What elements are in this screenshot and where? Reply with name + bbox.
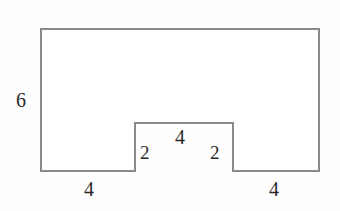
notched-rectangle-outline — [41, 29, 319, 171]
shape-outline-svg — [0, 0, 340, 211]
dimension-label-left-height: 6 — [16, 90, 26, 110]
dimension-label-bottom-left-width: 4 — [84, 179, 94, 199]
dimension-label-bottom-right-width: 4 — [269, 179, 279, 199]
dimension-label-notch-right-height: 2 — [210, 143, 220, 162]
geometry-figure: 6 4 2 4 2 4 — [0, 0, 340, 211]
dimension-label-notch-left-height: 2 — [140, 143, 150, 162]
dimension-label-notch-top-width: 4 — [175, 127, 185, 147]
